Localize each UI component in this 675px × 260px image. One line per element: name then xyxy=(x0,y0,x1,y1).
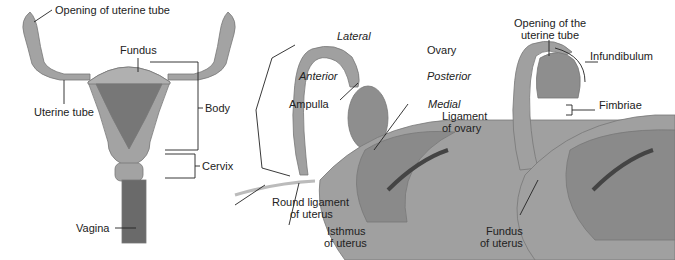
label-round-ligament-2: of uterus xyxy=(290,208,333,220)
label-body: Body xyxy=(205,102,230,114)
label-posterior: Posterior xyxy=(427,70,471,82)
label-ampulla: Ampulla xyxy=(289,98,329,110)
label-fundus-of-uterus-1: Fundus xyxy=(486,225,523,237)
label-ovary: Ovary xyxy=(427,44,456,56)
label-fundus: Fundus xyxy=(120,44,157,56)
label-isthmus-1: Isthmus xyxy=(327,225,366,237)
label-anterior: Anterior xyxy=(299,70,338,82)
label-cervix: Cervix xyxy=(202,160,233,172)
label-opening-uterine-tube: Opening of uterine tube xyxy=(55,4,170,16)
label-opening-of-the-1: Opening of the xyxy=(514,17,586,29)
reproductive-anatomy-diagram: Opening of uterine tube Fundus Uterine t… xyxy=(0,0,675,260)
label-isthmus-2: of uterus xyxy=(324,237,367,249)
label-ligament-of-ovary-1: Ligament xyxy=(442,110,487,122)
label-medial: Medial xyxy=(428,98,460,110)
label-ligament-of-ovary-2: of ovary xyxy=(442,122,481,134)
label-fundus-of-uterus-2: of uterus xyxy=(480,237,523,249)
label-fimbriae: Fimbriae xyxy=(599,99,642,111)
label-lateral: Lateral xyxy=(337,30,371,42)
label-opening-of-the-2: uterine tube xyxy=(521,29,579,41)
label-infundibulum: Infundibulum xyxy=(590,50,653,62)
label-uterine-tube: Uterine tube xyxy=(34,106,94,118)
label-vagina: Vagina xyxy=(76,222,109,234)
label-round-ligament-1: Round ligament xyxy=(272,196,349,208)
